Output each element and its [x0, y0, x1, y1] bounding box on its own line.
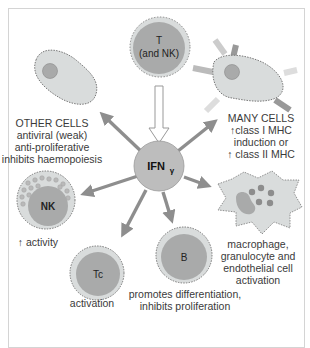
other-cells-effect-2: anti-proliferative — [15, 141, 90, 153]
macrophage-effect-2: granulocyte and — [221, 250, 296, 262]
other-cells-title: OTHER CELLS — [16, 117, 89, 129]
t-cell: T (and NK) — [130, 17, 190, 77]
ifn-subscript: γ — [170, 166, 175, 175]
macrophage-effect-4: activation — [236, 274, 281, 286]
many-cell — [193, 40, 297, 111]
many-cells-title: MANY CELLS — [228, 112, 294, 124]
tc-cell-label: Tc — [93, 269, 103, 280]
tc-effect: activation — [70, 297, 115, 309]
many-cells-effect-3: ↑ class II MHC — [227, 148, 295, 160]
nk-effect: ↑ activity — [18, 236, 59, 248]
ifn-label: IFN — [147, 160, 165, 172]
other-cells-effect-3: inhibits haemopoiesis — [2, 153, 102, 165]
t-cell-sublabel: (and NK) — [139, 48, 179, 59]
macrophage-effect-1: macrophage, — [227, 238, 288, 250]
macrophage-cell — [218, 171, 302, 234]
many-cells-effect-1: ↑class I MHC — [230, 124, 292, 136]
b-effect-1: promotes differentiation, — [129, 288, 241, 300]
t-cell-label: T — [156, 35, 162, 46]
b-cell: B — [156, 227, 212, 283]
many-cells-effect-2: induction or — [234, 136, 289, 148]
other-cell — [35, 50, 97, 104]
ifn-gamma-node: IFN γ — [134, 141, 184, 191]
tc-cell: Tc — [70, 246, 124, 300]
b-cell-label: B — [181, 252, 188, 263]
b-effect-2: inhibits proliferation — [140, 300, 231, 312]
other-cells-effect-1: antiviral (weak) — [17, 129, 88, 141]
nk-cell: NK — [17, 171, 75, 229]
macrophage-effect-3: endothelial cell — [223, 262, 292, 274]
nk-cell-label: NK — [41, 201, 56, 212]
secretion-arrow — [149, 86, 169, 143]
